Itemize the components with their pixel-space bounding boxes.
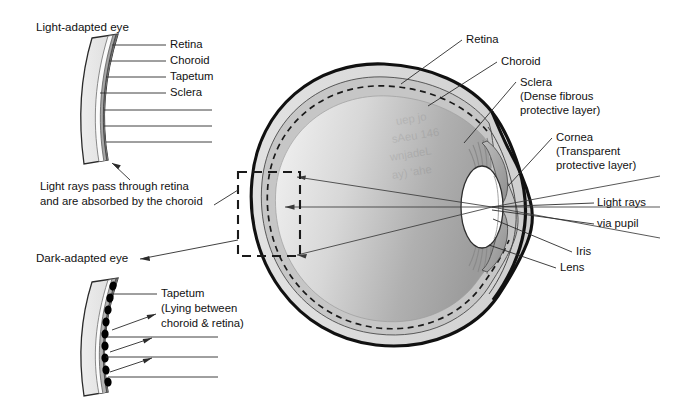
label-lens: Lens [560,261,585,273]
label-retina: Retina [466,33,499,45]
label-sclera-line2: (Dense fibrous [520,90,594,102]
dark-inset-label-tapetum-line1: Tapetum [161,287,204,299]
light-inset-caption-line2: and are absorbed by the choroid [40,195,203,207]
inset-light-adapted-heading: Light-adapted eye [36,20,129,33]
label-choroid: Choroid [501,55,541,67]
label-cornea-line3: protective layer) [556,159,637,171]
light-inset-label-sclera: Sclera [170,86,203,98]
label-iris: Iris [576,245,591,257]
light-inset-label-retina: Retina [170,38,203,50]
label-cornea-line2: (Transparent [556,145,621,157]
light-inset-label-tapetum: Tapetum [170,70,213,82]
label-light-rays-line1: Light rays [597,196,646,208]
diagram-canvas: uep jo sAeu 146 wnjadeL ay) ‘ahe [0,0,673,407]
label-sclera-line1: Sclera [520,76,553,88]
label-sclera-line3: protective layer) [520,104,601,116]
eye-diagram-figure: uep jo sAeu 146 wnjadeL ay) ‘ahe [0,0,673,407]
light-inset-caption-line1: Light rays pass through retina [40,180,190,192]
label-cornea-line1: Cornea [556,131,594,143]
label-light-rays-line2: via pupil [597,217,638,229]
inset-dark-adapted-heading: Dark-adapted eye [36,251,128,264]
dark-inset-label-tapetum-line2: (Lying between [161,302,237,314]
dark-inset-label-tapetum-line3: choroid & retina) [161,317,244,329]
light-inset-label-choroid: Choroid [170,54,210,66]
